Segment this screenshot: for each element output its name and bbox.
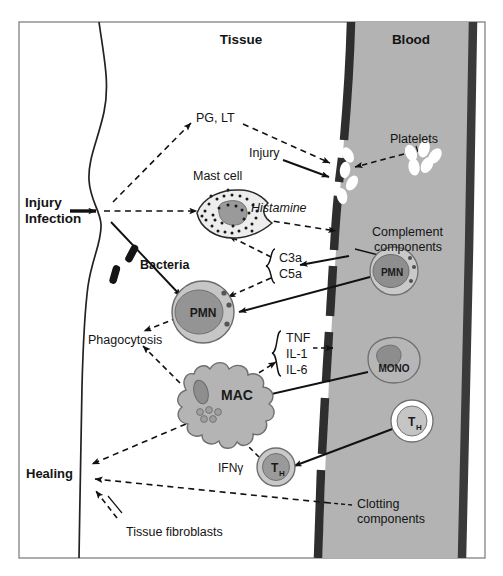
pmn-tissue-label: PMN [190, 306, 217, 320]
monocyte-group [368, 337, 420, 383]
injury-infection-label-line2: Infection [25, 211, 81, 226]
injury-infection-label-line1: Injury [25, 195, 62, 210]
pmn-granule [409, 279, 413, 283]
complement-label-line1: Complement [372, 225, 443, 239]
pmn-granule [226, 302, 231, 307]
macrophage-label: MAC [221, 387, 253, 403]
c5a-label: C5a [279, 267, 302, 281]
th-tissue-label: T [271, 461, 279, 475]
pmn-granule [408, 256, 412, 260]
th-tissue-label-sub: H [279, 469, 285, 478]
healing-label: Healing [26, 466, 73, 481]
mast-cell-nucleus [219, 201, 247, 226]
mast-cell-label: Mast cell [193, 169, 242, 183]
il1-label: IL-1 [286, 347, 308, 361]
injury-label: Injury [249, 146, 280, 160]
histamine-label: Histamine [251, 201, 307, 215]
tissue-compartment-label: Tissue [220, 32, 263, 47]
pmn-granule [224, 321, 229, 326]
platelets-label: Platelets [390, 132, 438, 146]
pmn-granule [412, 265, 416, 269]
pg-lt-label: PG, LT [196, 111, 235, 125]
tissue-fibroblasts-label: Tissue fibroblasts [126, 525, 223, 539]
pmn-blood-label: PMN [381, 267, 403, 278]
th-blood-label-sub: H [416, 423, 422, 432]
il6-label: IL-6 [286, 363, 308, 377]
monocyte-label: MONO [378, 363, 409, 374]
complement-label-line2: components [374, 240, 442, 254]
pmn-granule [221, 290, 226, 295]
tnf-label: TNF [286, 331, 311, 345]
clotting-label-line1: Clotting [357, 497, 399, 511]
figure-root: Tissue Blood [0, 0, 503, 576]
blood-compartment-label: Blood [392, 32, 430, 47]
clotting-label-line2: components [357, 512, 425, 526]
c3a-label: C3a [279, 251, 302, 265]
phagocytosis-label: Phagocytosis [88, 333, 162, 347]
th-blood-label: T [408, 415, 416, 429]
ifn-gamma-label: IFNγ [218, 461, 243, 475]
bacteria-label: Bacteria [140, 258, 190, 272]
inflammation-diagram: Tissue Blood [0, 0, 503, 576]
